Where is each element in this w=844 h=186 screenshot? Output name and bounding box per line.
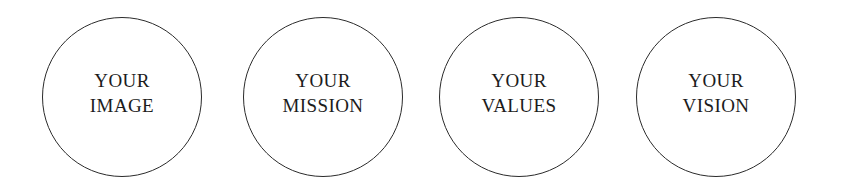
circle-your-vision-line1: YOUR: [688, 68, 743, 93]
circle-your-image-label: YOUR IMAGE: [90, 68, 154, 118]
diagram-canvas: YOUR IMAGE YOUR MISSION YOUR VALUES YOUR…: [0, 0, 844, 186]
circle-your-image-line2: IMAGE: [90, 93, 154, 118]
circle-your-values-line1: YOUR: [491, 68, 546, 93]
circle-your-values[interactable]: YOUR VALUES: [439, 17, 599, 177]
circle-your-values-line2: VALUES: [482, 93, 557, 118]
circle-your-mission-line2: MISSION: [283, 93, 364, 118]
circle-your-mission[interactable]: YOUR MISSION: [243, 17, 403, 177]
circle-your-image-line1: YOUR: [94, 68, 149, 93]
circle-your-mission-line1: YOUR: [295, 68, 350, 93]
circle-your-values-label: YOUR VALUES: [482, 68, 557, 118]
circle-your-mission-label: YOUR MISSION: [283, 68, 364, 118]
circle-your-image[interactable]: YOUR IMAGE: [42, 17, 202, 177]
circle-your-vision[interactable]: YOUR VISION: [636, 17, 796, 177]
circle-your-vision-label: YOUR VISION: [683, 68, 750, 118]
circle-your-vision-line2: VISION: [683, 93, 750, 118]
